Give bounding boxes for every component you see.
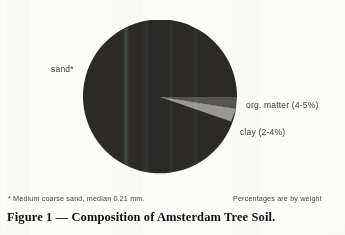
- pie-disc: [83, 20, 237, 174]
- footnote-sand-grain: * Medium coarse sand, median 0.21 mm.: [8, 194, 145, 203]
- pie-label-clay: clay (2-4%): [240, 127, 285, 137]
- pie-chart: sand* org. matter (4-5%) clay (2-4%): [0, 0, 345, 188]
- pie-svg: [83, 20, 237, 174]
- pie-label-org-matter: org. matter (4-5%): [246, 100, 319, 110]
- pie-slice-sand[interactable]: [83, 20, 237, 173]
- footnote-percentages: Percentages are by weight: [233, 194, 322, 203]
- pie-label-sand: sand*: [51, 64, 74, 74]
- figure-caption: Figure 1 — Composition of Amsterdam Tree…: [7, 210, 275, 225]
- figure-page: sand* org. matter (4-5%) clay (2-4%) * M…: [0, 0, 345, 235]
